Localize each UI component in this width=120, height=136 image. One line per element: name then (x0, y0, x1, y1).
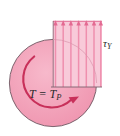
torque-label-text: T = T (29, 87, 56, 101)
torque-label: T = TP (29, 88, 61, 101)
torque-label-subscript: P (56, 92, 61, 102)
shear-stress-label: τY (103, 38, 111, 51)
torsion-figure: T = TP τY (0, 0, 120, 136)
figure-canvas (0, 0, 120, 136)
shear-stress-label-subscript: Y (107, 42, 111, 51)
